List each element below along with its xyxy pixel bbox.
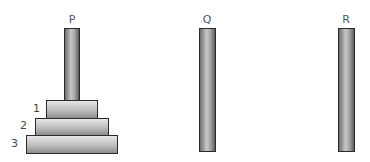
peg-p: [64, 28, 80, 102]
disk-2: [35, 118, 109, 136]
peg-label-r: R: [336, 14, 356, 25]
disk-number-2: 2: [20, 120, 27, 131]
peg-q: [199, 28, 216, 152]
peg-r: [338, 28, 355, 152]
peg-label-p: P: [62, 14, 82, 25]
disk-number-1: 1: [33, 103, 40, 114]
disk-number-3: 3: [11, 138, 18, 149]
disk-1: [46, 100, 98, 119]
disk-3: [26, 135, 118, 154]
peg-label-q: Q: [197, 14, 217, 25]
